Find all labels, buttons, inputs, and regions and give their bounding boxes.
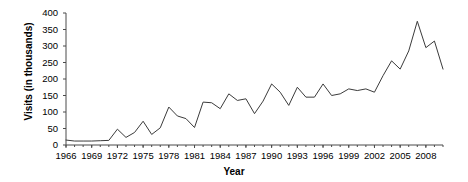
y-tick-label: 400 [32,7,58,18]
y-tick-label: 250 [32,57,58,68]
x-tick-label: 1978 [156,150,182,161]
y-tick-label: 350 [32,24,58,35]
x-tick-label: 1999 [336,150,362,161]
x-axis-title: Year [0,166,468,177]
y-tick-label: 0 [32,139,58,150]
series-line-visits [66,21,443,141]
x-tick-label: 2008 [413,150,439,161]
y-tick-label: 100 [32,106,58,117]
x-tick-label: 1987 [233,150,259,161]
y-tick-label: 200 [32,73,58,84]
x-tick-label: 1996 [310,150,336,161]
y-tick-label: 300 [32,40,58,51]
x-tick-label: 2002 [361,150,387,161]
x-tick-label: 1981 [182,150,208,161]
x-tick-label: 1969 [79,150,105,161]
x-tick-label: 1993 [284,150,310,161]
x-tick-label: 1972 [104,150,130,161]
line-chart: Visits (in thousands) Year 0501001502002… [0,0,468,182]
x-tick-label: 1975 [130,150,156,161]
x-tick-label: 1990 [259,150,285,161]
y-tick-label: 50 [32,123,58,134]
x-tick-label: 1984 [207,150,233,161]
x-tick-label: 2005 [387,150,413,161]
y-tick-label: 150 [32,90,58,101]
x-tick-label: 1966 [53,150,79,161]
